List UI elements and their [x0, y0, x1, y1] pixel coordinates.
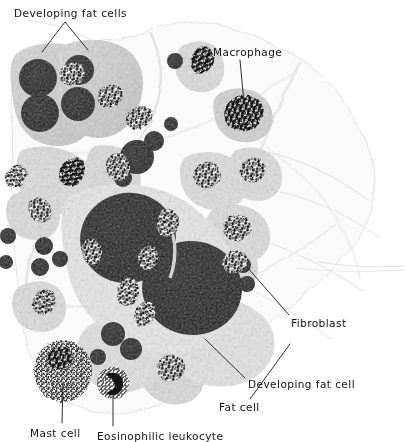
- label-fat-cell: Fat cell: [219, 402, 260, 413]
- label-developing-fat-cell: Developing fat cell: [248, 379, 355, 390]
- eosinophil-cell: [97, 367, 129, 399]
- label-eosinophilic-leukocyte: Eosinophilic leukocyte: [97, 431, 223, 442]
- label-fibroblast: Fibroblast: [291, 318, 346, 329]
- label-mast-cell: Mast cell: [30, 428, 81, 439]
- adipose-tissue-micrograph: [0, 0, 408, 442]
- label-developing-fat-cells: Developing fat cells: [14, 8, 127, 19]
- micrograph-plate: [0, 0, 408, 442]
- label-macrophage: Macrophage: [213, 47, 282, 58]
